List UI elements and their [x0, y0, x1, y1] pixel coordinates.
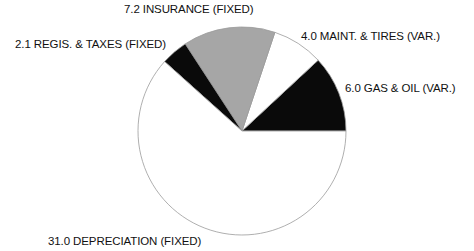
- label-insurance: 7.2 INSURANCE (FIXED): [124, 3, 254, 15]
- label-regis-taxes: 2.1 REGIS. & TAXES (FIXED): [15, 38, 166, 50]
- label-maint-tires: 4.0 MAINT. & TIRES (VAR.): [301, 30, 440, 42]
- label-depreciation: 31.0 DEPRECIATION (FIXED): [48, 235, 201, 247]
- label-gas-oil: 6.0 GAS & OIL (VAR.): [345, 82, 455, 94]
